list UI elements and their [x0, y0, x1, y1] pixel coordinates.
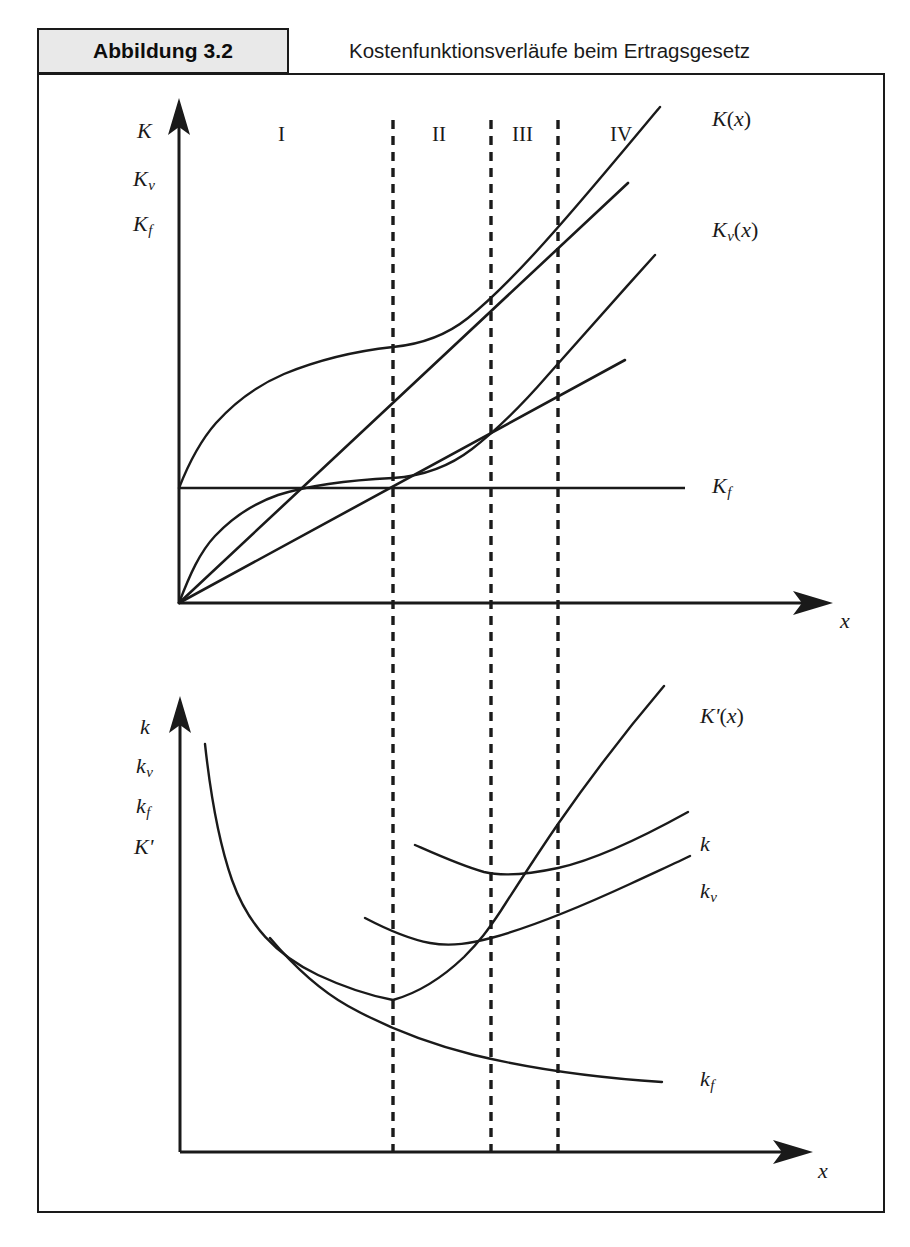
curve-label-kv: kv — [700, 880, 717, 905]
lower-y-label-K-prime: K' — [134, 836, 153, 858]
figure-number-label: Abbildung 3.2 — [93, 39, 233, 63]
lower-y-label-kf: kf — [136, 795, 150, 820]
region-label-IV: IV — [610, 124, 632, 145]
lower-x-axis-label: x — [818, 1160, 828, 1182]
figure-root: Abbildung 3.2 Kostenfunktionsverläufe be… — [0, 0, 910, 1247]
upper-x-axis-label: x — [840, 610, 850, 632]
region-label-III: III — [512, 124, 533, 145]
upper-y-label-Kf: Kf — [133, 213, 152, 238]
upper-y-label-Kv: Kv — [133, 168, 155, 193]
curve-label-K: K(x) — [712, 108, 751, 130]
figure-header: Abbildung 3.2 Kostenfunktionsverläufe be… — [37, 28, 885, 76]
lower-y-label-kv: kv — [136, 755, 153, 780]
figure-number-box: Abbildung 3.2 — [37, 28, 289, 74]
region-label-I: I — [278, 124, 285, 145]
lower-y-label-k: k — [140, 716, 150, 738]
curve-label-kf: kf — [700, 1068, 714, 1093]
figure-title: Kostenfunktionsverläufe beim Ertragsgese… — [299, 28, 750, 74]
region-label-II: II — [432, 124, 446, 145]
curve-label-Kf: Kf — [712, 475, 731, 500]
curve-label-K-prime: K'(x) — [700, 705, 744, 727]
upper-y-label-K: K — [137, 120, 152, 142]
curve-label-k: k — [700, 833, 710, 855]
curve-label-Kv: Kv(x) — [712, 219, 758, 244]
